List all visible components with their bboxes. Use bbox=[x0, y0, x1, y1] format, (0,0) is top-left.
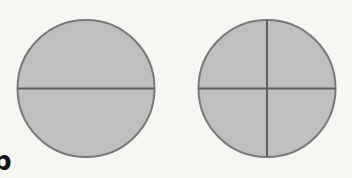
figure-canvas bbox=[0, 0, 352, 178]
corner-mark: b bbox=[0, 152, 16, 178]
circle-halves bbox=[18, 20, 155, 157]
circle-quarters bbox=[199, 20, 336, 157]
corner-mark-glyph: b bbox=[0, 152, 12, 174]
